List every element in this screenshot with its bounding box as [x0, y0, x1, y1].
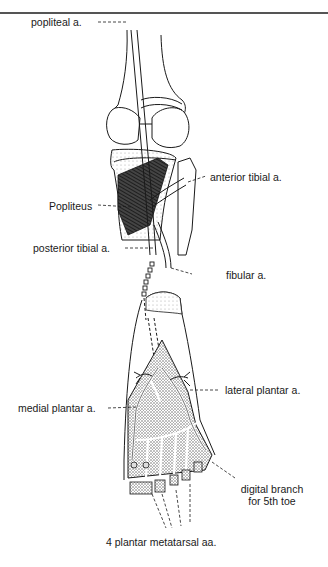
label-plantar-metatarsal-arteries: 4 plantar metatarsal aa.: [106, 536, 216, 548]
label-digital-branch-line2: for 5th toe: [236, 495, 308, 507]
label-popliteus: Popliteus: [49, 200, 92, 212]
label-posterior-tibial-artery: posterior tibial a.: [33, 242, 110, 254]
femoral-condyles: [107, 107, 189, 147]
heel-pad: [146, 292, 182, 314]
label-fibular-artery: fibular a.: [226, 269, 266, 281]
label-anterior-tibial-artery: anterior tibial a.: [210, 171, 282, 183]
fibula: [178, 158, 196, 255]
label-lateral-plantar-artery: lateral plantar a.: [225, 384, 300, 396]
label-digital-branch-line1: digital branch: [236, 483, 308, 495]
label-popliteal-artery: popliteal a.: [31, 16, 82, 28]
label-digital-branch: digital branch for 5th toe: [236, 483, 308, 507]
leg-foot-arteries-illustration: [0, 0, 328, 567]
plantar-region: [128, 340, 212, 478]
label-medial-plantar-artery: medial plantar a.: [18, 402, 96, 414]
vessel-dotted-connector: [142, 262, 154, 296]
